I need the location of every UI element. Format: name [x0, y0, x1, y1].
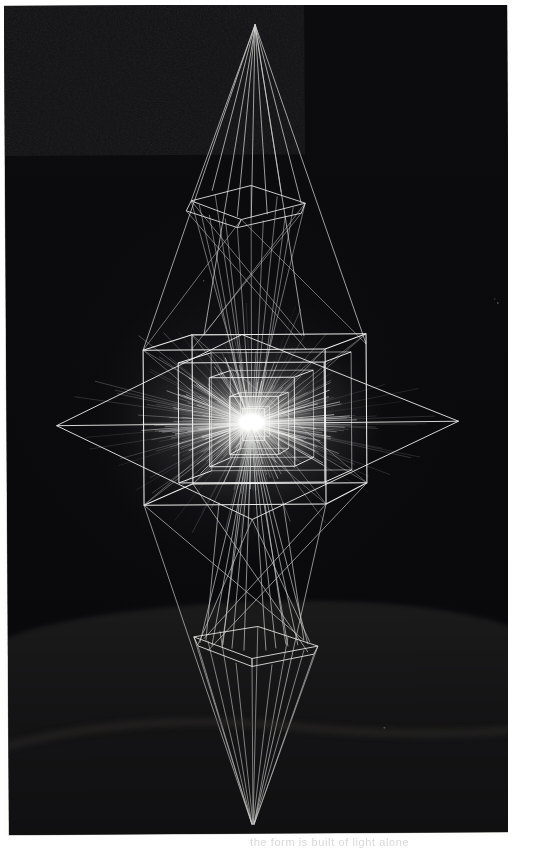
photograph — [4, 3, 512, 835]
page-margin-left — [0, 0, 4, 848]
horizon-line — [4, 720, 512, 748]
page-margin-right — [508, 0, 535, 848]
caption-fragment: the form is built of light alone — [250, 837, 535, 848]
upper-pyramid — [141, 24, 366, 350]
page-margin-top — [0, 0, 535, 5]
upper-square-frame — [186, 185, 305, 228]
core-hotspot — [238, 413, 264, 431]
scanned-page: the form is built of light alone — [0, 0, 535, 848]
light-sculpture-drawing — [4, 3, 512, 835]
